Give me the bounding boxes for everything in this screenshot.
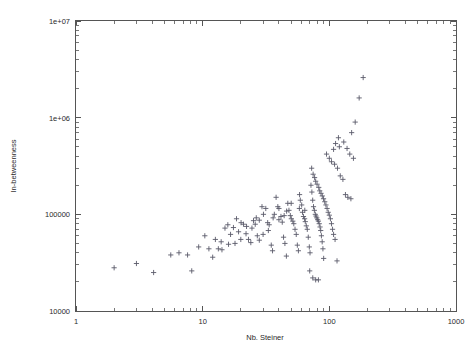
data-point (311, 204, 316, 209)
data-point (309, 189, 314, 194)
data-point (272, 212, 277, 217)
axis-ticks (76, 21, 456, 311)
data-point (238, 237, 243, 242)
data-point (336, 135, 341, 140)
data-point (286, 208, 291, 213)
data-point (243, 231, 248, 236)
data-point (324, 206, 329, 211)
y-tick-label: 1e+07 (49, 17, 70, 26)
data-point (216, 246, 221, 251)
data-point (112, 265, 117, 270)
data-point (281, 235, 286, 240)
data-point (219, 247, 224, 252)
data-point (189, 268, 194, 273)
data-point (297, 192, 302, 197)
data-point (228, 232, 233, 237)
data-point (323, 202, 328, 207)
data-point (320, 246, 325, 251)
data-point (361, 75, 366, 80)
data-point (284, 253, 289, 258)
y-tick-label: 1e+06 (49, 114, 70, 123)
data-point (134, 261, 139, 266)
data-point (357, 95, 362, 100)
data-point (213, 237, 218, 242)
data-point (326, 210, 331, 215)
data-point (261, 212, 266, 217)
data-point (299, 202, 304, 207)
data-point (328, 216, 333, 221)
series-steiner-betweenness (112, 75, 366, 282)
data-point (288, 213, 293, 218)
data-point (249, 226, 254, 231)
data-point (303, 219, 308, 224)
data-point (257, 238, 262, 243)
data-point (332, 237, 337, 242)
data-point (331, 147, 336, 152)
y-tick-label: 10000 (49, 307, 70, 316)
data-point (210, 255, 215, 260)
data-point (246, 237, 251, 242)
data-point (289, 201, 294, 206)
x-axis-title: Nb. Steiner (246, 333, 284, 342)
data-point (327, 213, 332, 218)
data-point (324, 151, 329, 156)
data-point (266, 228, 271, 233)
data-point (196, 244, 201, 249)
data-point (318, 191, 323, 196)
data-point (334, 258, 339, 263)
data-point (280, 220, 285, 225)
data-point (307, 268, 312, 273)
data-point (206, 246, 211, 251)
data-point (185, 252, 190, 257)
x-tick-label: 100 (323, 317, 336, 326)
data-point (344, 146, 349, 151)
data-point (202, 233, 207, 238)
data-point (347, 151, 352, 156)
data-point (298, 198, 303, 203)
data-point (316, 277, 321, 282)
data-point (274, 195, 279, 200)
data-point (292, 227, 297, 232)
data-point (248, 240, 253, 245)
data-point (225, 222, 230, 227)
data-point (261, 232, 266, 237)
x-tick-label: 1000 (448, 317, 465, 326)
data-point (321, 256, 326, 261)
data-point (320, 239, 325, 244)
data-point (332, 162, 337, 167)
data-point (304, 223, 309, 228)
data-point (317, 224, 322, 229)
data-point (168, 252, 173, 257)
data-point (294, 232, 299, 237)
data-point (295, 243, 300, 248)
data-point (331, 232, 336, 237)
data-point (312, 208, 317, 213)
data-point (222, 226, 227, 231)
data-point (236, 229, 241, 234)
data-point (341, 139, 346, 144)
data-point (317, 188, 322, 193)
data-point (307, 250, 312, 255)
y-axis-title: In-betweenness (9, 139, 18, 192)
data-point (333, 141, 338, 146)
data-point (282, 241, 287, 246)
data-point (176, 250, 181, 255)
data-point (320, 193, 325, 198)
data-point (337, 144, 342, 149)
plot-frame (76, 21, 457, 312)
data-point (321, 196, 326, 201)
data-point (319, 233, 324, 238)
data-point (306, 235, 311, 240)
axis-tick-labels: 1101001000100001000001e+061e+07 (45, 17, 464, 326)
data-point (291, 221, 296, 226)
data-point (254, 215, 259, 220)
data-point (310, 198, 315, 203)
data-point (297, 206, 302, 211)
data-point (255, 233, 260, 238)
data-point (232, 241, 237, 246)
chart-container: 1101001000100001000001e+061e+07 Nb. Stei… (0, 0, 474, 349)
data-point (322, 199, 327, 204)
data-point (269, 243, 274, 248)
data-point (271, 215, 276, 220)
data-point (340, 177, 345, 182)
